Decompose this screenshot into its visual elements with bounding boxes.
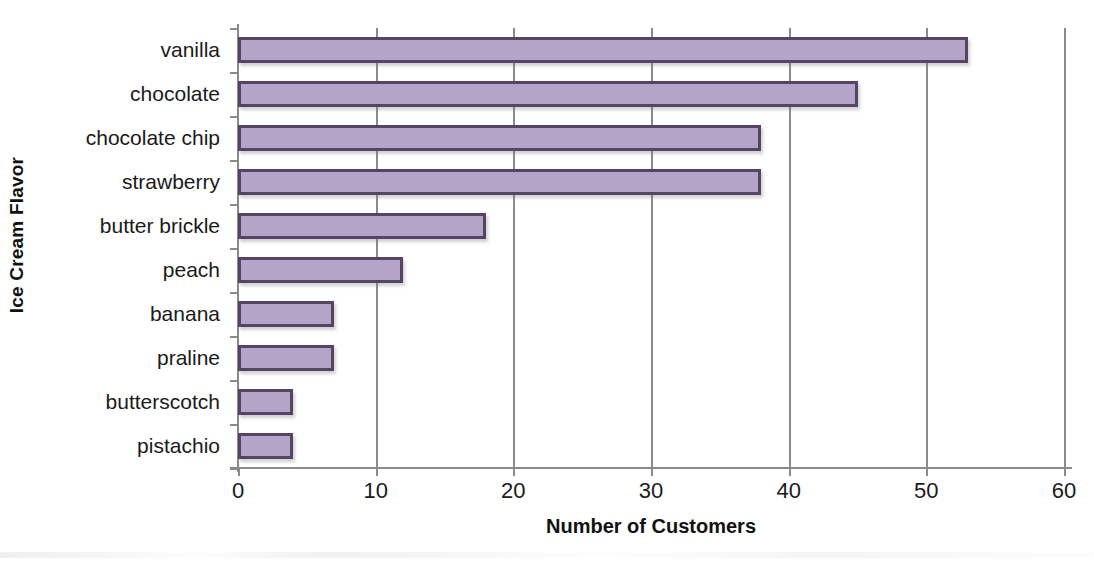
x-tick-label: 30 bbox=[639, 478, 663, 504]
bar bbox=[238, 389, 293, 415]
y-tick-mark bbox=[230, 116, 238, 118]
y-axis-title-text: Ice Cream Flavor bbox=[6, 157, 28, 313]
x-tick-mark bbox=[238, 467, 240, 476]
y-tick-mark bbox=[230, 336, 238, 338]
y-tick-mark bbox=[230, 248, 238, 250]
x-tick-label: 20 bbox=[501, 478, 525, 504]
plot-area bbox=[238, 28, 1064, 468]
y-tick-label: peach bbox=[34, 248, 230, 292]
bar bbox=[238, 345, 334, 371]
gridline bbox=[1064, 28, 1066, 468]
y-axis-tick-labels: vanilla chocolate chocolate chip strawbe… bbox=[34, 28, 230, 468]
bar-row bbox=[238, 380, 1064, 424]
y-tick-mark bbox=[230, 72, 238, 74]
x-tick-mark bbox=[513, 467, 515, 476]
x-tick-mark bbox=[651, 467, 653, 476]
y-tick-label: butter brickle bbox=[34, 204, 230, 248]
y-tick-mark bbox=[230, 468, 238, 470]
bar bbox=[238, 81, 858, 107]
x-axis-title: Number of Customers bbox=[238, 515, 1064, 538]
bar bbox=[238, 301, 334, 327]
bar-row bbox=[238, 292, 1064, 336]
bar-chart: Ice Cream Flavor vanilla chocolate choco… bbox=[0, 0, 1094, 562]
x-tick-label: 50 bbox=[914, 478, 938, 504]
bar-row bbox=[238, 248, 1064, 292]
y-tick-label: pistachio bbox=[34, 424, 230, 468]
x-tick-mark bbox=[376, 467, 378, 476]
bar-row bbox=[238, 28, 1064, 72]
y-tick-label: chocolate chip bbox=[34, 116, 230, 160]
y-tick-mark bbox=[230, 160, 238, 162]
bars-group bbox=[238, 28, 1064, 468]
x-tick-label: 0 bbox=[232, 478, 244, 504]
y-tick-label: chocolate bbox=[34, 72, 230, 116]
bar-row bbox=[238, 336, 1064, 380]
y-tick-label: banana bbox=[34, 292, 230, 336]
y-tick-mark bbox=[230, 28, 238, 30]
y-tick-mark bbox=[230, 292, 238, 294]
x-tick-label: 60 bbox=[1052, 478, 1076, 504]
bar bbox=[238, 125, 761, 151]
y-tick-mark bbox=[230, 204, 238, 206]
bar bbox=[238, 433, 293, 459]
x-tick-mark bbox=[1064, 467, 1066, 476]
bar-row bbox=[238, 72, 1064, 116]
bar bbox=[238, 169, 761, 195]
bar-row bbox=[238, 116, 1064, 160]
y-tick-label: butterscotch bbox=[34, 380, 230, 424]
y-tick-label: praline bbox=[34, 336, 230, 380]
bar bbox=[238, 257, 403, 283]
bar-row bbox=[238, 160, 1064, 204]
x-tick-label: 40 bbox=[776, 478, 800, 504]
y-axis-title: Ice Cream Flavor bbox=[0, 0, 34, 470]
x-tick-mark bbox=[926, 467, 928, 476]
scan-artifact bbox=[0, 552, 1094, 558]
bar-row bbox=[238, 424, 1064, 468]
y-tick-label: vanilla bbox=[34, 28, 230, 72]
x-axis-tick-labels: 0102030405060 bbox=[0, 478, 1094, 512]
bar bbox=[238, 213, 486, 239]
x-tick-label: 10 bbox=[363, 478, 387, 504]
x-tick-mark bbox=[789, 467, 791, 476]
y-tick-label: strawberry bbox=[34, 160, 230, 204]
bar bbox=[238, 37, 968, 63]
y-tick-mark bbox=[230, 380, 238, 382]
y-tick-mark bbox=[230, 424, 238, 426]
bar-row bbox=[238, 204, 1064, 248]
